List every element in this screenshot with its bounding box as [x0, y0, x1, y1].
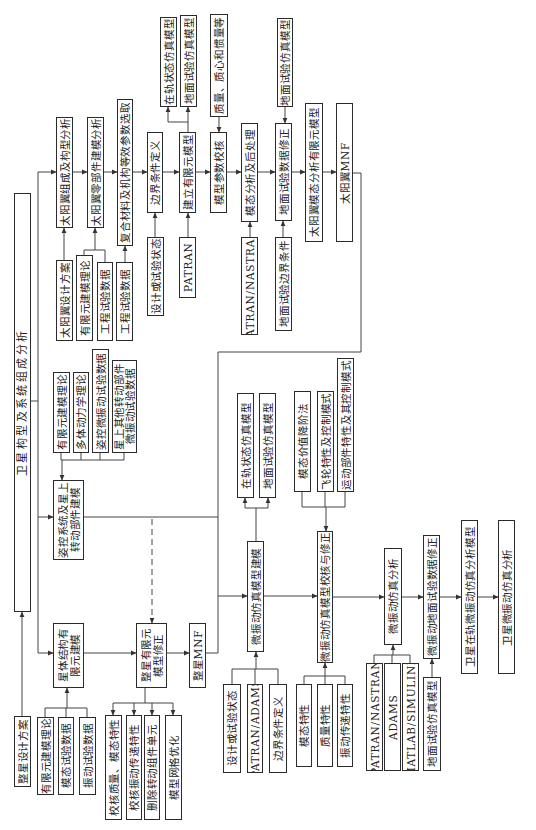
solar-wing-fem-model-box: 太阳翼模态分析有限元模型 — [305, 103, 323, 242]
mv-design-state-box: 设计或试验状态 — [223, 684, 241, 773]
mesh-optimization-box: 模型网格优化 — [165, 715, 182, 820]
mv-ground-correction-box: 微振动地面试验数据修正 — [423, 535, 440, 659]
mv-analysis-box: 微振动仿真分析 — [384, 548, 402, 645]
build-fem-box: 建立有限元模型 — [179, 132, 196, 213]
solar-wing-parts-modeling-box: 太阳翼零部件建模分析 — [87, 117, 104, 228]
equivalent-parameter-box: 复合材料及机构等效参数选取 — [117, 99, 133, 246]
system-analysis-box: 卫星构型及系统组成分析 — [14, 193, 31, 612]
solar-boundary-condition-box: 边界条件定义 — [147, 132, 163, 213]
mv-ground-model-input-box: 地面试验仿真模型 — [423, 677, 441, 771]
patran-input-box: PATRAN — [179, 237, 196, 298]
patran-adams-box: PATRAN/ADAMS — [247, 684, 263, 773]
rotating-parts-data-box: 星上其他转动部件 微振动试验数据 — [112, 360, 137, 453]
satellite-design-box: 整星设计方案 — [14, 716, 31, 787]
tool-patran-nastran-box: PATRAN/NASTRAN — [366, 663, 383, 771]
mv-verification-box: 微振动仿真模型校核与修正 — [317, 531, 333, 663]
engineering-data-input-box: 工程试验数据 — [116, 262, 133, 341]
check-transfer-box: 校核振动传递特性 — [126, 715, 142, 820]
onorbit-analysis-model-box: 卫星在轨微振动仿真分析模型 — [461, 520, 478, 674]
attitude-fem-theory-box: 有限元建模理论 — [53, 372, 70, 453]
mv-onorbit-model-box: 在轨状态仿真模型 — [237, 393, 254, 498]
solar-onorbit-model-box: 在轨状态仿真模型 — [160, 17, 177, 107]
ground-test-correction-box: 地面试验数据修正 — [275, 123, 292, 221]
engineering-data-input-box: 工程试验数据 — [97, 262, 113, 341]
solar-design-input-box: 太阳翼设计方案 — [56, 260, 73, 341]
moving-parts-control-box: 运动部件特性及其控制模式 — [337, 358, 354, 492]
vibration-test-data-box: 振动试验数据 — [79, 717, 96, 795]
mv-boundary-box: 边界条件定义 — [269, 684, 287, 773]
solar-ground-model-box: 地面试验仿真模型 — [180, 15, 197, 107]
flywheel-control-box: 飞轮特性及控制模式 — [317, 391, 334, 492]
mass-inertia-box: 质量、质心和惯量等 — [210, 14, 228, 117]
structure-fem-box: 星体结构有 限元建模 — [53, 623, 84, 688]
attitude-model-box: 姿控系统及星上 转动部件建模 — [53, 480, 84, 560]
ground-test-model-input-box: 地面试验仿真模型 — [277, 18, 293, 107]
delete-rotating-elements-box: 删除转动组件单元 — [144, 715, 160, 820]
solar-wing-composition-box: 太阳翼组成及构型分析 — [56, 117, 73, 228]
fem-theory-input-box: 有限元建模理论 — [76, 255, 93, 341]
flowchart-canvas: 卫星构型及系统组成分析 整星设计方案 太阳翼组成及构型分析 太阳翼零部件建模分析… — [0, 0, 536, 830]
ground-boundary-input-box: 地面试验边界条件 — [275, 237, 292, 331]
modal-test-data-box: 模态试验数据 — [58, 717, 74, 795]
model-parameter-check-box: 模型参数校核 — [210, 132, 227, 213]
mass-property-box: 质量特性 — [317, 684, 333, 767]
transfer-property-box: 振动传递特性 — [337, 684, 353, 767]
multibody-theory-box: 多体动力学理论 — [73, 372, 89, 453]
solar-wing-mnf-box: 太阳翼MNF — [336, 103, 353, 242]
final-analysis-box: 卫星微振动仿真分析 — [498, 520, 515, 674]
check-mass-modal-box: 校核质量、模态特性 — [105, 715, 122, 820]
modal-reduction-box: 模态价值降阶法 — [294, 391, 311, 492]
tool-matlab-simulink-box: MATLAB/SIMULINK — [402, 663, 419, 771]
tool-adams-box: ADAMS — [384, 663, 401, 771]
structure-fem-theory-box: 有限元建模理论 — [37, 717, 54, 795]
design-test-state-input-box: 设计或试验状态 — [147, 237, 164, 316]
modal-analysis-box: 模态分析及后处理 — [241, 123, 258, 222]
satellite-fem-correction-box: 整星有限元 模型修正 — [136, 623, 167, 688]
mv-ground-model-box: 地面试验仿真模型 — [259, 393, 276, 498]
modal-property-box: 模态特性 — [296, 684, 312, 767]
attitude-vibration-data-box: 姿控微振动试验数据 — [92, 349, 109, 453]
satellite-mnf-box: 整星MNF — [189, 623, 206, 688]
patran-nastran-input-box: PATRAN/NASTRAN — [241, 237, 258, 335]
micro-vibration-modeling-box: 微振动仿真模型建模 — [247, 541, 264, 652]
